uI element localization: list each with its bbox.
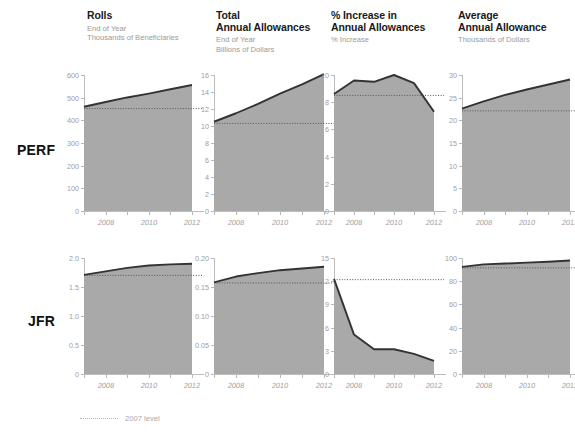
x-tick-label: 2008	[97, 218, 115, 227]
y-tick-mark	[81, 345, 84, 346]
x-tick-mark	[334, 375, 335, 378]
chart-panel-jfr-1: 00.050.100.150.20200820102012	[0, 0, 575, 444]
y-tick-mark	[211, 177, 214, 178]
column-subtitle: Thousands of Dollars	[458, 35, 573, 45]
x-tick-mark	[527, 212, 528, 215]
y-tick-mark	[81, 258, 84, 259]
x-tick-mark	[484, 212, 485, 215]
plot-area	[0, 0, 575, 444]
y-tick-label: 10	[426, 161, 457, 170]
y-tick-label: 0	[48, 207, 79, 216]
x-tick-mark	[548, 375, 549, 378]
y-tick-label: 0	[426, 370, 457, 379]
y-tick-label: 12	[178, 105, 209, 114]
y-tick-mark	[211, 126, 214, 127]
x-tick-mark	[84, 212, 85, 215]
y-tick-label: 0	[426, 207, 457, 216]
x-tick-mark	[570, 212, 571, 215]
y-tick-mark	[331, 129, 334, 130]
y-tick-label: 0.05	[178, 341, 209, 350]
x-tick-label: 2012	[425, 218, 443, 227]
y-tick-label: 0.15	[178, 283, 209, 292]
y-axis	[462, 258, 463, 375]
series-line	[334, 279, 434, 361]
area-fill	[84, 85, 192, 211]
x-tick-mark	[236, 212, 237, 215]
x-tick-mark	[192, 212, 193, 215]
y-tick-mark	[459, 211, 462, 212]
y-tick-mark	[331, 211, 334, 212]
x-tick-mark	[106, 375, 107, 378]
y-tick-label: 0.20	[178, 254, 209, 263]
x-tick-mark	[214, 375, 215, 378]
y-tick-mark	[81, 211, 84, 212]
y-tick-label: 8	[178, 139, 209, 148]
x-tick-mark	[394, 375, 395, 378]
x-tick-label: 2012	[315, 218, 333, 227]
y-tick-label: 3	[298, 346, 329, 355]
y-tick-label: 4	[298, 152, 329, 161]
series-line	[214, 74, 324, 122]
y-tick-mark	[81, 98, 84, 99]
y-tick-mark	[331, 351, 334, 352]
x-tick-mark	[302, 375, 303, 378]
plot-area	[0, 0, 575, 444]
column-header-1: Total Annual Allowances End of Year Bill…	[216, 10, 331, 54]
y-tick-label: 100	[48, 184, 79, 193]
y-tick-mark	[459, 281, 462, 282]
x-tick-mark	[236, 375, 237, 378]
x-tick-mark	[374, 212, 375, 215]
dotted-line-icon	[80, 418, 118, 419]
y-tick-mark	[211, 211, 214, 212]
x-tick-mark	[394, 212, 395, 215]
x-tick-mark	[505, 212, 506, 215]
y-tick-label: 0.10	[178, 312, 209, 321]
y-tick-mark	[81, 120, 84, 121]
y-tick-label: 5	[426, 184, 457, 193]
y-tick-mark	[459, 75, 462, 76]
y-tick-label: 10	[298, 71, 329, 80]
y-tick-label: 0.5	[48, 341, 79, 350]
area-fill	[462, 80, 570, 211]
y-tick-mark	[331, 304, 334, 305]
x-tick-mark	[414, 212, 415, 215]
y-tick-label: 15	[298, 254, 329, 263]
y-tick-label: 500	[48, 93, 79, 102]
y-tick-label: 15	[426, 139, 457, 148]
x-tick-label: 2008	[97, 381, 115, 390]
y-tick-label: 30	[426, 71, 457, 80]
y-tick-label: 0	[298, 370, 329, 379]
y-tick-label: 0	[48, 370, 79, 379]
y-tick-mark	[459, 374, 462, 375]
y-tick-label: 600	[48, 71, 79, 80]
y-axis	[84, 258, 85, 375]
x-axis	[334, 374, 446, 375]
y-tick-mark	[331, 374, 334, 375]
y-tick-label: 60	[426, 300, 457, 309]
area-fill	[462, 261, 570, 374]
y-tick-label: 20	[426, 346, 457, 355]
column-title: Total Annual Allowances	[216, 10, 331, 33]
plot-area	[0, 0, 575, 444]
figure-root: Rolls End of Year Thousands of Beneficia…	[0, 0, 575, 444]
plot-area	[0, 0, 575, 444]
chart-panel-perf-3: 051015202530200820102012	[0, 0, 575, 444]
x-tick-label: 2012	[561, 381, 575, 390]
y-tick-label: 25	[426, 93, 457, 102]
y-tick-mark	[81, 287, 84, 288]
y-tick-mark	[459, 258, 462, 259]
x-tick-mark	[106, 212, 107, 215]
y-tick-label: 14	[178, 88, 209, 97]
y-tick-label: 6	[298, 323, 329, 332]
x-tick-mark	[462, 375, 463, 378]
y-tick-label: 4	[178, 173, 209, 182]
x-tick-mark	[149, 375, 150, 378]
area-fill	[214, 74, 324, 211]
column-subtitle: End of Year Thousands of Beneficiaries	[87, 24, 197, 43]
column-header-2: % Increase in Annual Allowances % Increa…	[331, 10, 446, 45]
y-tick-mark	[331, 184, 334, 185]
y-tick-label: 12	[298, 277, 329, 286]
x-axis	[334, 211, 446, 212]
y-tick-label: 0	[178, 207, 209, 216]
x-tick-label: 2010	[271, 381, 289, 390]
